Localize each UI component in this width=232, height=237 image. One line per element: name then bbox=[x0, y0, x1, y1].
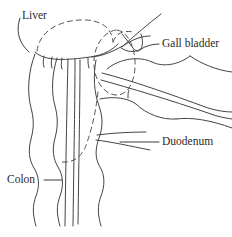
label-colon: Colon bbox=[7, 173, 35, 185]
anatomy-illustration: Liver Gall bladder Duodenum Colon bbox=[0, 0, 232, 237]
duodenum-band-2 bbox=[101, 80, 232, 119]
label-liver: Liver bbox=[22, 9, 47, 21]
label-gall-bladder: Gall bladder bbox=[162, 37, 219, 49]
intestine-arc-middle-2 bbox=[136, 104, 176, 119]
intestine-arc-middle-1 bbox=[100, 98, 136, 104]
duodenal-loop-dashed-circle bbox=[94, 30, 135, 95]
liver-right-lobe bbox=[92, 36, 150, 57]
gall-bladder-shape-group bbox=[121, 14, 161, 52]
liver-dashed-dome bbox=[37, 20, 113, 51]
colon-shape-group bbox=[29, 54, 104, 226]
gall-bladder-leader-line bbox=[141, 44, 159, 49]
liver-lower-border bbox=[35, 44, 118, 59]
gall-bladder-pouch bbox=[122, 34, 141, 51]
gall-bladder-neck bbox=[141, 34, 143, 49]
anatomy-diagram: Liver Gall bladder Duodenum Colon bbox=[0, 0, 232, 237]
liver-leader-line bbox=[18, 18, 29, 52]
colon-inner-left-border bbox=[53, 58, 63, 226]
liver-hatch-4 bbox=[88, 58, 89, 68]
liver-hatch-2 bbox=[51, 57, 52, 68]
duodenum-lower-edge-2 bbox=[97, 132, 146, 135]
liver-hatch-3 bbox=[61, 58, 62, 69]
intestine-arc-upper-3 bbox=[190, 56, 232, 72]
central-vessel-line-1 bbox=[65, 59, 68, 226]
colon-left-border bbox=[29, 54, 39, 226]
intestine-arc-middle-3 bbox=[176, 118, 232, 128]
central-vessel-line-3 bbox=[78, 60, 80, 224]
central-vessel-line-2 bbox=[73, 59, 75, 226]
duodenum-band-1 bbox=[102, 73, 232, 112]
intestine-tick-1 bbox=[128, 90, 129, 98]
colon-right-border bbox=[94, 60, 104, 226]
intestine-arc-upper-1 bbox=[107, 59, 152, 69]
label-duodenum: Duodenum bbox=[162, 135, 213, 147]
liver-hatch-1 bbox=[43, 56, 44, 67]
intestine-arc-upper-2 bbox=[152, 56, 190, 65]
